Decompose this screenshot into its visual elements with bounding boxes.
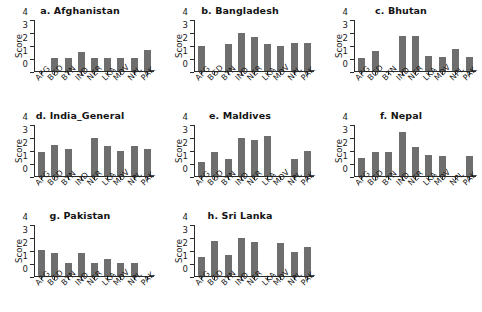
y-axis-tick-label: 0 (23, 165, 28, 174)
plot-area: Score01234AFGBGDBTNINDNERLKAMDVNPLPAK (194, 125, 302, 177)
x-axis-label-slot: MDV (274, 76, 287, 106)
x-axis-label-slot: PAK (141, 281, 154, 311)
y-axis-tick (190, 151, 194, 152)
y-axis-tick-label: 0 (343, 165, 348, 174)
x-axis-label-slot: BGD (48, 281, 61, 311)
bar-series (35, 225, 154, 276)
y-axis-tick-label: 0 (343, 60, 348, 69)
y-axis-tick (190, 20, 194, 21)
x-axis-label-slot: LKA (101, 76, 114, 106)
bar-slot (75, 20, 88, 71)
bar-slot (88, 225, 101, 276)
bar-slot (61, 125, 74, 176)
bar-slot (221, 20, 234, 71)
bar-slot (261, 20, 274, 71)
bar-slot (449, 20, 462, 71)
bar-slot (88, 125, 101, 176)
y-axis-tick-label: 3 (23, 126, 28, 135)
y-axis-tick (350, 164, 354, 165)
x-axis-label-slot: BGD (208, 281, 221, 311)
bar-slot (195, 125, 208, 176)
x-axis-label-slot: NPL (288, 281, 301, 311)
x-axis-label-slot: LKA (101, 281, 114, 311)
y-axis-tick-label: 0 (23, 265, 28, 274)
y-axis-tick-label: 1 (183, 47, 188, 56)
bar-slot (261, 225, 274, 276)
chart-panel: d. India_GeneralScore01234AFGBGDBTNINDNE… (0, 105, 160, 205)
y-axis-tick-label: 0 (183, 60, 188, 69)
y-axis-tick-label: 3 (343, 126, 348, 135)
y-axis-tick (190, 225, 194, 226)
x-axis-label-slot: BTN (221, 281, 234, 311)
chart-panel: h. Sri LankaScore01234AFGBGDBTNINDNERLKA… (160, 205, 320, 312)
chart-panel: b. BangladeshScore01234AFGBGDBTNINDNERLK… (160, 0, 320, 105)
x-axis-label-slot: BTN (382, 76, 395, 106)
y-axis-tick-label: 2 (343, 34, 348, 43)
x-axis-label-slot: AFG (355, 181, 368, 211)
x-axis-label-slot: LKA (422, 76, 435, 106)
x-axis-label-slot: BTN (61, 281, 74, 311)
y-axis-tick-label: 3 (23, 226, 28, 235)
chart-panel: f. NepalScore01234AFGBGDBTNINDNERLKAMDVN… (320, 105, 482, 205)
bar-slot (395, 125, 408, 176)
x-axis-label-slot: NER (409, 181, 422, 211)
y-axis-tick-label: 2 (343, 139, 348, 148)
bar-slot (301, 125, 314, 176)
bar-slot (382, 20, 395, 71)
x-axis-label-slot: PAK (141, 76, 154, 106)
bar-slot (88, 20, 101, 71)
bar-slot (235, 225, 248, 276)
y-axis-tick (190, 138, 194, 139)
x-axis-label-slot: NPL (128, 76, 141, 106)
y-axis-tick-label: 3 (183, 226, 188, 235)
y-axis-tick-label: 0 (183, 165, 188, 174)
bar-slot (141, 125, 154, 176)
y-axis-tick-label: 4 (183, 113, 188, 122)
x-axis-label-slot: MDV (436, 181, 449, 211)
x-axis-label-slot: NPL (449, 181, 462, 211)
bar-slot (409, 20, 422, 71)
x-axis-labels: AFGBGDBTNINDNERLKAMDVNPLPAK (355, 181, 476, 211)
bar-slot (141, 20, 154, 71)
x-axis-label-slot: MDV (274, 281, 287, 311)
x-axis-label-slot: IND (235, 281, 248, 311)
chart-panel: a. AfghanistanScore01234AFGBGDBTNINDNERL… (0, 0, 160, 105)
x-axis-labels: AFGBGDBTNINDNERLKAMDVNPLPAK (195, 281, 314, 311)
y-axis-tick (190, 264, 194, 265)
y-axis-tick (30, 164, 34, 165)
y-axis-tick (30, 138, 34, 139)
bar-slot (101, 20, 114, 71)
bar-slot (101, 225, 114, 276)
x-axis-label-slot: BGD (208, 76, 221, 106)
y-axis-tick-label: 1 (23, 252, 28, 261)
bar-slot (395, 20, 408, 71)
bar-slot (355, 125, 368, 176)
x-axis-label-slot: LKA (261, 76, 274, 106)
y-axis-tick (350, 46, 354, 47)
y-axis-tick-label: 4 (343, 113, 348, 122)
y-axis-tick (30, 238, 34, 239)
bar-series (195, 20, 314, 71)
bar-slot (75, 225, 88, 276)
y-axis-tick (30, 33, 34, 34)
x-axis-label-slot: PAK (301, 281, 314, 311)
x-axis-label-slot: PAK (463, 181, 476, 211)
x-axis-label-slot: PAK (463, 76, 476, 106)
bar-slot (382, 125, 395, 176)
x-axis-label-slot: IND (75, 281, 88, 311)
y-axis-tick-label: 4 (343, 8, 348, 17)
bar-series (35, 125, 154, 176)
chart-panel: g. PakistanScore01234AFGBGDBTNINDNERLKAM… (0, 205, 160, 312)
y-axis-tick (350, 59, 354, 60)
y-axis-tick-label: 2 (183, 34, 188, 43)
x-axis-label-slot: AFG (35, 76, 48, 106)
x-axis-label-slot: NER (409, 76, 422, 106)
small-multiples-chart-grid: a. AfghanistanScore01234AFGBGDBTNINDNERL… (0, 0, 482, 312)
bar-slot (128, 225, 141, 276)
y-axis-tick-label: 0 (23, 60, 28, 69)
y-axis-tick (190, 59, 194, 60)
bar-slot (409, 125, 422, 176)
y-axis-tick (30, 225, 34, 226)
y-axis-tick (30, 46, 34, 47)
bar-slot (35, 225, 48, 276)
